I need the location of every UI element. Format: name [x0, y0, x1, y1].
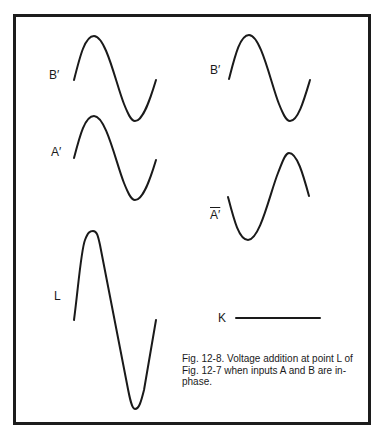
label-left-a-prime: A′	[51, 146, 61, 158]
waveform-left-a-prime	[74, 116, 156, 200]
label-right-b-prime: B′	[210, 64, 220, 76]
figure-caption: Fig. 12-8. Voltage addition at point L o…	[182, 353, 362, 388]
waveform-left-l	[74, 231, 156, 409]
label-right-k: K	[218, 312, 226, 324]
waveform-right-a-bar-prime	[228, 153, 309, 240]
waveform-right-b-prime	[229, 35, 310, 121]
label-left-l: L	[54, 290, 61, 302]
label-right-a-bar-prime: A′	[210, 209, 220, 221]
waveform-left-b-prime	[74, 36, 156, 121]
label-left-b-prime: B′	[49, 69, 59, 81]
